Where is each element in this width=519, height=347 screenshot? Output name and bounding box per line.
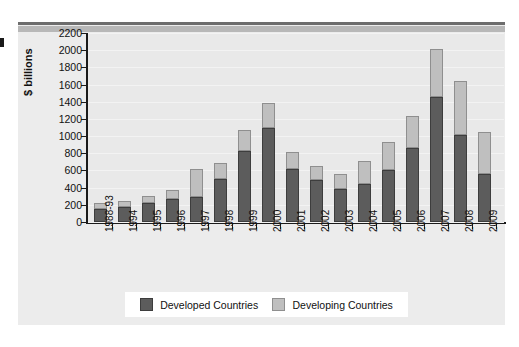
y-tick-label: 600 [64,165,82,175]
bar-segment-developing [238,130,251,151]
x-tick-label: 2001 [297,210,307,232]
x-tick-label: 1994 [129,210,139,232]
y-tick-mark [81,67,86,68]
y-tick-mark [81,222,86,223]
y-tick-mark [81,153,86,154]
bar-segment-developing [334,174,347,189]
y-tick-mark [81,33,86,34]
y-tick-label: 800 [64,148,82,158]
x-tick-label: 2004 [369,210,379,232]
y-tick-mark [81,85,86,86]
bar-segment-developing [262,103,275,129]
bar-segment-developing [406,116,419,148]
bar-segment-developing [454,81,467,135]
y-tick-label: 1600 [59,80,82,90]
bar-segment-developing [478,132,491,174]
legend-swatch-developing [272,298,285,311]
bar-segment-developing [142,196,155,203]
y-tick-mark [81,205,86,206]
x-tick-label: 2005 [393,210,403,232]
x-tick-label: 1997 [201,210,211,232]
x-tick-label: 1998 [225,210,235,232]
y-tick-label: 2000 [59,45,82,55]
y-tick-mark [81,170,86,171]
bar-column [430,49,443,222]
x-tick-label: 1999 [249,210,259,232]
bar-segment-developing [358,161,371,184]
y-axis-tick-labels: 2200200018001600140012001000800600400200… [40,0,82,347]
y-tick-mark [81,136,86,137]
bar-column [262,103,275,222]
bar-segment-developing [286,152,299,168]
y-tick-mark [81,50,86,51]
x-tick-label: 2009 [489,210,499,232]
y-axis-title: $ billions [22,80,34,96]
bar-segment-developing [430,49,443,97]
legend-swatch-developed [140,298,153,311]
bar-segment-developed [430,97,443,222]
y-tick-label: 1400 [59,97,82,107]
y-tick-mark [81,102,86,103]
x-tick-label: 1988-93 [105,195,115,232]
y-tick-label: 400 [64,183,82,193]
bar-column [238,130,251,222]
bar-column [454,81,467,222]
legend-label-developed: Developed Countries [160,299,258,311]
legend-label-developing: Developing Countries [292,299,392,311]
y-tick-label: 2200 [59,28,82,38]
chart-figure: $ billions 22002000180016001400120010008… [0,0,519,347]
bar-column [478,132,491,222]
bar-segment-developing [166,190,179,199]
bar-column [406,116,419,222]
y-tick-label: 1800 [59,62,82,72]
gridline [88,33,504,34]
x-tick-label: 2008 [465,210,475,232]
bar-segment-developing [310,166,323,180]
x-tick-label: 1996 [177,210,187,232]
y-tick-label: 200 [64,200,82,210]
y-tick-label: 1200 [59,114,82,124]
bar-segment-developing [214,163,227,179]
legend-item-developing: Developing Countries [272,298,392,311]
x-tick-label: 2007 [441,210,451,232]
x-tick-label: 2002 [321,210,331,232]
y-tick-label: 1000 [59,131,82,141]
x-tick-label: 2003 [345,210,355,232]
bar-segment-developing [190,169,203,197]
bar-segment-developing [382,142,395,169]
y-tick-mark [81,119,86,120]
x-tick-label: 2000 [273,210,283,232]
chart-legend: Developed Countries Developing Countries [125,292,408,317]
legend-item-developed: Developed Countries [140,298,258,311]
x-tick-label: 2006 [417,210,427,232]
x-tick-label: 1995 [153,210,163,232]
bar-segment-developed [262,128,275,222]
y-tick-mark [81,188,86,189]
